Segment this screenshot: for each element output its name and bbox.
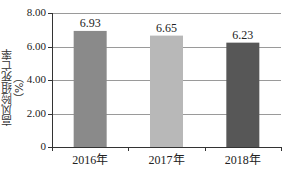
- x-tick-label: 2017年: [137, 150, 197, 168]
- y-tick-label: 6.00: [0, 40, 46, 52]
- y-axis-label: 高风险组死亡率（%）: [2, 38, 16, 138]
- bar-1: [150, 36, 183, 147]
- bar-value-label: 6.65: [147, 21, 187, 36]
- x-tick-label: 2016年: [60, 150, 120, 168]
- bar-value-label: 6.23: [223, 28, 263, 43]
- bar-2: [226, 43, 259, 147]
- x-tick-label: 2018年: [213, 150, 273, 168]
- y-tick-label: 0: [0, 140, 46, 152]
- bar-value-label: 6.93: [70, 16, 110, 31]
- y-tick-label: 4.00: [0, 73, 46, 85]
- y-tick-label: 8.00: [0, 6, 46, 18]
- bar-0: [74, 31, 107, 147]
- bar-chart: 高风险组死亡率（%） 02.004.006.008.00 2016年2017年2…: [0, 0, 297, 169]
- y-tick-label: 2.00: [0, 107, 46, 119]
